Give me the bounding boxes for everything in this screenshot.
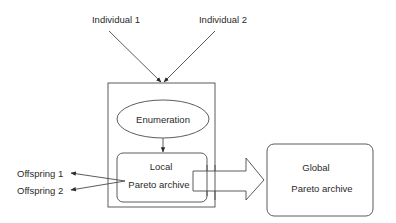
enumeration-label: Enumeration xyxy=(136,114,190,125)
global-archive-label-line2: Pareto archive xyxy=(291,183,352,194)
arrow-individual-2-to-box xyxy=(164,31,215,82)
arrow-individual-1-to-box xyxy=(109,31,161,82)
local-archive-label-line2: Pareto archive xyxy=(128,179,189,190)
global-pareto-archive-node xyxy=(267,144,373,216)
input-label-individual-1: Individual 1 xyxy=(92,14,140,25)
input-label-individual-2: Individual 2 xyxy=(199,14,247,25)
pareto-archive-diagram: Individual 1 Individual 2 Enumeration Lo… xyxy=(0,0,396,223)
local-archive-label-line1: Local xyxy=(150,161,173,172)
output-label-offspring-1: Offspring 1 xyxy=(17,168,63,179)
block-arrow-local-to-global xyxy=(193,158,264,200)
global-archive-label-line1: Global xyxy=(302,162,329,173)
output-label-offspring-2: Offspring 2 xyxy=(17,185,63,196)
